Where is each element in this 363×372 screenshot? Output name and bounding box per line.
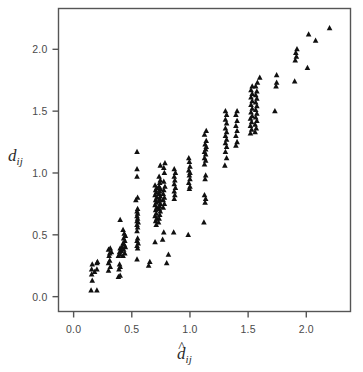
- y-axis-tick-label: 1.5: [0, 105, 48, 117]
- x-axis-title: ^dij: [177, 344, 192, 365]
- y-axis-tick-label: 2.0: [0, 43, 48, 55]
- plot-background: [0, 0, 363, 372]
- y-axis-tick-label: 0.0: [0, 291, 48, 303]
- x-axis-tick-label: 1.5: [241, 323, 256, 335]
- x-axis-tick-label: 1.0: [182, 323, 197, 335]
- x-axis-tick-label: 2.0: [299, 323, 314, 335]
- y-axis-tick-label: 0.5: [0, 229, 48, 241]
- x-axis-tick-label: 0.5: [124, 323, 139, 335]
- y-axis-variable: d: [8, 146, 17, 165]
- scatter-plot-figure: 0.00.51.01.52.0 0.00.51.01.52.0 dij ^dij: [0, 0, 363, 372]
- y-axis-tick-label: 1.0: [0, 167, 48, 179]
- x-axis-tick-label: 0.0: [66, 323, 81, 335]
- y-axis-subscript: ij: [17, 155, 24, 167]
- y-axis-title: dij: [8, 146, 23, 167]
- x-axis-hat-accent: ^: [178, 340, 185, 355]
- plot-canvas: [0, 0, 363, 372]
- x-axis-subscript: ij: [186, 353, 193, 365]
